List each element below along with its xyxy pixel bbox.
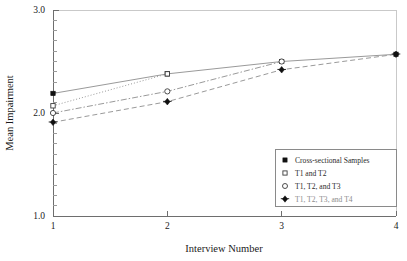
y-tick-label: 2.0: [33, 108, 45, 118]
x-tick-label: 3: [279, 221, 284, 231]
series-1: [51, 52, 398, 96]
series-line: [53, 74, 167, 106]
x-axis-tick-labels: 1234: [51, 221, 399, 231]
line-chart: 3.02.01.0 1234 Mean Impairment Interview…: [0, 0, 407, 261]
legend-label: Cross-sectional Samples: [295, 156, 369, 165]
data-point-open-square: [165, 72, 169, 76]
data-point-filled-diamond: [277, 66, 286, 73]
data-point-open-circle: [279, 59, 284, 64]
x-tick-label: 1: [51, 221, 56, 231]
legend-marker-open-square: [283, 171, 287, 175]
y-axis-title: Mean Impairment: [4, 75, 15, 151]
series-3: [50, 59, 284, 116]
series-line: [53, 54, 396, 93]
x-axis-title: Interview Number: [185, 243, 263, 254]
x-axis-ticks: [53, 211, 396, 216]
data-point-filled-diamond: [163, 98, 172, 105]
x-tick-label: 4: [394, 221, 399, 231]
data-point-filled-diamond: [49, 119, 58, 126]
legend-label: T1, T2, and T3: [295, 182, 341, 191]
legend-label: T1 and T2: [295, 169, 327, 178]
legend-marker-filled-square: [283, 158, 287, 162]
legend: Cross-sectional SamplesT1 and T2T1, T2, …: [276, 150, 397, 207]
legend-label: T1, T2, T3, and T4: [295, 195, 353, 204]
data-point-open-square: [51, 104, 55, 108]
data-point-filled-square: [51, 91, 55, 95]
x-tick-label: 2: [165, 221, 170, 231]
y-tick-label: 3.0: [33, 5, 45, 15]
series-line: [53, 54, 396, 122]
y-tick-label: 1.0: [33, 211, 45, 221]
data-point-open-circle: [165, 89, 170, 94]
y-axis-tick-labels: 3.02.01.0: [33, 5, 45, 221]
series-4: [49, 51, 401, 126]
data-point-open-circle: [50, 110, 55, 115]
chart-container: 3.02.01.0 1234 Mean Impairment Interview…: [0, 0, 407, 261]
data-point-filled-diamond: [392, 51, 401, 58]
series-layer: [49, 51, 401, 126]
legend-marker-open-circle: [283, 184, 288, 189]
legend-item[interactable]: Cross-sectional Samples: [283, 156, 370, 165]
